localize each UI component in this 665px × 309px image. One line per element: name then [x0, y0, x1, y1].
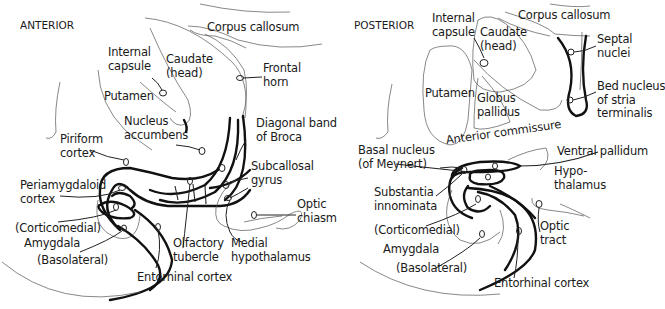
label-optic-tract: Optic tract: [540, 220, 569, 247]
label-corpus-callosum-anterior: Corpus callosum: [207, 21, 299, 35]
label-piriform-cortex: Piriform cortex: [60, 133, 103, 160]
label-corpus-callosum-posterior: Corpus callosum: [518, 9, 610, 23]
label-bed-nucleus-stria-terminalis: Bed nucleus of stria terminalis: [597, 80, 665, 121]
label-substantia-innominata: Substantia innominata: [374, 186, 437, 213]
panel-title-posterior: POSTERIOR: [354, 19, 414, 31]
label-basolateral-posterior: (Basolateral): [396, 262, 467, 276]
label-amygdala-anterior: Amygdala: [24, 237, 80, 251]
label-internal-capsule-anterior: Internal capsule: [108, 46, 151, 73]
label-entorhinal-cortex-posterior: Entorhinal cortex: [494, 277, 589, 291]
label-optic-chiasm: Optic chiasm: [297, 198, 337, 225]
label-basolateral-anterior: (Basolateral): [37, 254, 108, 268]
label-periamygdaloid-cortex: Periamygdaloid cortex: [20, 179, 106, 206]
label-olfactory-tubercle: Olfactory tubercle: [173, 237, 224, 264]
label-hypothalamus: Hypo- thalamus: [554, 165, 606, 192]
panel-title-anterior: ANTERIOR: [20, 19, 74, 31]
label-corticomedial-posterior: (Corticomedial): [374, 224, 460, 238]
label-frontal-horn: Frontal horn: [263, 62, 301, 89]
label-internal-capsule-posterior: Internal capsule: [432, 12, 475, 39]
label-entorhinal-cortex-anterior: Entorhinal cortex: [137, 271, 232, 285]
label-diagonal-band-of-broca: Diagonal band of Broca: [256, 117, 337, 144]
label-medial-hypothalamus: Medial hypothalamus: [231, 237, 311, 264]
label-nucleus-accumbens: Nucleus accumbens: [124, 115, 188, 142]
label-basal-nucleus-meynert: Basal nucleus (of Meynert): [358, 144, 435, 171]
label-amygdala-posterior: Amygdala: [383, 243, 439, 257]
label-corticomedial-anterior: (Corticomedial): [15, 222, 101, 236]
label-caudate-head-anterior: Caudate (head): [166, 53, 213, 80]
label-putamen-anterior: Putamen: [104, 90, 154, 104]
label-subcallosal-gyrus: Subcallosal gyrus: [251, 160, 314, 187]
label-putamen-posterior: Putamen: [425, 87, 475, 101]
label-septal-nuclei: Septal nuclei: [597, 33, 632, 60]
label-globus-pallidus: Globus pallidus: [477, 92, 520, 119]
label-ventral-pallidum: Ventral pallidum: [557, 145, 648, 159]
label-caudate-head-posterior: Caudate (head): [480, 26, 527, 53]
